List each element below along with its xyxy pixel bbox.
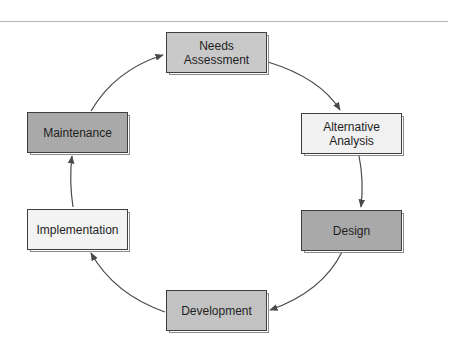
node-label-maintenance: Maintenance [27,112,128,153]
node-design: Design [301,210,402,251]
node-label-design: Design [301,210,402,251]
arrow-implementation-to-maintenance [71,156,73,207]
node-implementation: Implementation [27,209,128,250]
node-maintenance: Maintenance [27,112,128,153]
node-needs-assessment: Needs Assessment [166,32,267,73]
node-label-needs-assessment: Needs Assessment [166,32,267,73]
arrow-design-to-development [270,252,342,310]
arrow-development-to-implementation [91,253,165,312]
node-alternative-analysis: Alternative Analysis [301,113,402,154]
arrow-needs-to-alternative [268,62,340,110]
arrow-maintenance-to-needs [91,55,163,111]
arrow-alternative-to-design [359,156,362,207]
node-development: Development [166,290,267,331]
node-label-alternative-analysis: Alternative Analysis [301,113,402,154]
node-label-implementation: Implementation [27,209,128,250]
node-label-development: Development [166,290,267,331]
